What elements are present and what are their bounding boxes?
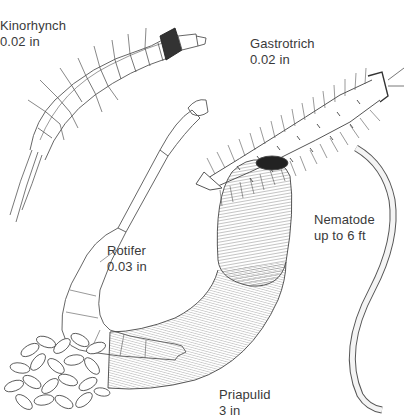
- kinorhynch-name: Kinorhynch: [0, 18, 66, 34]
- priapulid-size: 3 in: [219, 403, 271, 419]
- gastrotrich-size: 0.02 in: [250, 52, 315, 68]
- nematode-size: up to 6 ft: [314, 228, 375, 244]
- priapulid-name: Priapulid: [219, 387, 271, 403]
- gastrotrich-name: Gastrotrich: [250, 36, 315, 52]
- rotifer-name: Rotifer: [107, 243, 147, 259]
- kinorhynch-label: Kinorhynch 0.02 in: [0, 18, 66, 50]
- priapulid-drawing: [3, 156, 292, 412]
- kinorhynch-size: 0.02 in: [0, 34, 66, 50]
- rotifer-size: 0.03 in: [107, 259, 147, 275]
- illustration-canvas: Kinorhynch 0.02 in Gastrotrich 0.02 in R…: [0, 0, 409, 420]
- nematode-name: Nematode: [314, 212, 375, 228]
- priapulid-label: Priapulid 3 in: [219, 387, 271, 419]
- nematode-label: Nematode up to 6 ft: [314, 212, 375, 244]
- nematode-drawing: [352, 148, 393, 410]
- specimen-drawings: [0, 0, 409, 420]
- kinorhynch-drawing: [10, 28, 206, 222]
- gastrotrich-label: Gastrotrich 0.02 in: [250, 36, 315, 68]
- rotifer-label: Rotifer 0.03 in: [107, 243, 147, 275]
